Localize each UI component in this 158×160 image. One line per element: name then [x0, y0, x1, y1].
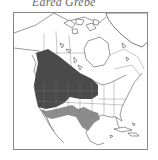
range-map-frame — [13, 12, 148, 150]
range-map — [14, 13, 148, 150]
florida — [116, 117, 120, 129]
arctic-islands — [64, 19, 99, 34]
alaska-border — [14, 13, 54, 33]
caribbean-islands — [110, 123, 139, 138]
species-title: Eared Grebe — [32, 0, 132, 10]
winter-range — [40, 105, 100, 131]
greenland-shape — [106, 13, 148, 47]
atlantic-coast — [120, 73, 142, 121]
hudson-bay — [84, 37, 110, 67]
